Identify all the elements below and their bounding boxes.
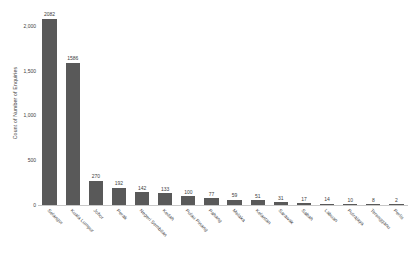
- x-axis-tick-slot: Sabah: [292, 206, 315, 254]
- x-axis-tick-slot: Melaka: [223, 206, 246, 254]
- plot-area: 208215862701921421331007759513117141082: [38, 8, 408, 205]
- bar-item[interactable]: 10: [339, 8, 362, 205]
- x-axis-tick-label: Pahang: [208, 208, 224, 224]
- bar-value-label: 14: [324, 197, 330, 202]
- x-axis-tick-label: Sabah: [300, 208, 314, 222]
- bar-item[interactable]: 133: [154, 8, 177, 205]
- bar-value-label: 2082: [44, 12, 55, 17]
- bar-value-label: 17: [301, 197, 307, 202]
- bar-value-label: 31: [278, 196, 284, 201]
- bar-item[interactable]: 17: [292, 8, 315, 205]
- bar-value-label: 133: [161, 187, 169, 192]
- bar-value-label: 10: [347, 198, 353, 203]
- bar-chart: Count of Number of Enquiries 05001,0001,…: [0, 0, 414, 254]
- bar-rect[interactable]: [158, 193, 172, 205]
- x-axis-tick-slot: Putrajaya: [339, 206, 362, 254]
- y-axis-tick-labels: 05001,0001,5002,000: [18, 8, 36, 205]
- bar-item[interactable]: 142: [131, 8, 154, 205]
- bar-item[interactable]: 270: [84, 8, 107, 205]
- x-axis-tick-slot: Pahang: [200, 206, 223, 254]
- bar-rect[interactable]: [135, 192, 149, 205]
- bar-rect[interactable]: [181, 196, 195, 205]
- bar-rect[interactable]: [42, 19, 56, 205]
- bar-item[interactable]: 8: [362, 8, 385, 205]
- x-axis-tick-label: Kedah: [162, 208, 176, 222]
- x-axis-tick-label: Johor: [92, 208, 104, 220]
- bar-item[interactable]: 100: [177, 8, 200, 205]
- bar-item[interactable]: 2: [385, 8, 408, 205]
- x-axis-tick-slot: Labuan: [316, 206, 339, 254]
- bar-item[interactable]: 192: [107, 8, 130, 205]
- x-axis-tick-slot: Kedah: [154, 206, 177, 254]
- bar-value-label: 77: [209, 192, 215, 197]
- x-axis-tick-label: Melaka: [231, 208, 246, 223]
- y-axis-tick: 1,000: [23, 112, 36, 118]
- bar-item[interactable]: 1586: [61, 8, 84, 205]
- x-axis-tick-slot: Perak: [107, 206, 130, 254]
- bar-rect[interactable]: [66, 63, 80, 205]
- bar-value-label: 270: [92, 174, 100, 179]
- bar-item[interactable]: 31: [269, 8, 292, 205]
- bar-item[interactable]: 2082: [38, 8, 61, 205]
- x-axis-tick-slot: Johor: [84, 206, 107, 254]
- x-axis-tick-slot: Kuala Lumpur: [61, 206, 84, 254]
- bar-item[interactable]: 14: [316, 8, 339, 205]
- bar-item[interactable]: 59: [223, 8, 246, 205]
- x-axis-tick-label: Perak: [115, 208, 128, 221]
- x-axis-tick-slot: Terengganu: [362, 206, 385, 254]
- x-axis-tick-slot: Sarawak: [269, 206, 292, 254]
- x-axis-tick-slot: Perlis: [385, 206, 408, 254]
- bar-rect[interactable]: [112, 188, 126, 205]
- x-axis-tick-slot: Negeri Sembilan: [131, 206, 154, 254]
- x-axis-tick-slot: Kelantan: [246, 206, 269, 254]
- x-axis-tick-slot: Pulau Pinang: [177, 206, 200, 254]
- bar-value-label: 8: [372, 198, 375, 203]
- x-axis-tick-labels: SelangorKuala LumpurJohorPerakNegeri Sem…: [38, 206, 408, 254]
- x-axis-tick-slot: Selangor: [38, 206, 61, 254]
- bar-rect[interactable]: [204, 198, 218, 205]
- x-axis-tick-label: Labuan: [324, 208, 339, 223]
- y-axis-tick: 0: [33, 202, 36, 208]
- bar-value-label: 142: [138, 186, 146, 191]
- y-axis-tick: 500: [28, 157, 36, 163]
- bar-series: 208215862701921421331007759513117141082: [38, 8, 408, 205]
- bar-item[interactable]: 51: [246, 8, 269, 205]
- bar-rect[interactable]: [89, 181, 103, 205]
- bar-value-label: 192: [115, 181, 123, 186]
- bar-value-label: 100: [184, 190, 192, 195]
- y-axis-tick: 2,000: [23, 23, 36, 29]
- bar-item[interactable]: 77: [200, 8, 223, 205]
- bar-value-label: 1586: [67, 56, 78, 61]
- bar-value-label: 2: [395, 198, 398, 203]
- bar-value-label: 51: [255, 194, 261, 199]
- y-axis-tick: 1,500: [23, 68, 36, 74]
- bar-value-label: 59: [232, 193, 238, 198]
- x-axis-tick-label: Perlis: [393, 208, 405, 220]
